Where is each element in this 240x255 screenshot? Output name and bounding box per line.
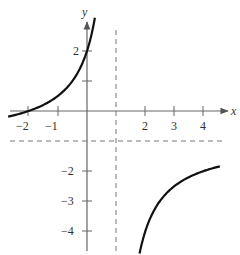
y-tick-label: −4 xyxy=(61,224,74,238)
y-tick-label: −2 xyxy=(61,164,74,178)
y-axis-label: y xyxy=(81,5,88,19)
x-axis-label: x xyxy=(230,104,237,118)
x-tick-label: 3 xyxy=(171,119,177,133)
curve-left-branch xyxy=(8,18,95,117)
curve-right-branch xyxy=(140,166,220,253)
y-tick-label: 2 xyxy=(73,44,79,58)
x-tick-label: 2 xyxy=(142,119,148,133)
function-graph: x y −2 −1 2 3 4 2 −2 −3 −4 xyxy=(0,0,240,255)
x-tick-label: −2 xyxy=(16,119,29,133)
x-tick-label: −1 xyxy=(45,119,58,133)
x-tick-label: 4 xyxy=(200,119,206,133)
y-tick-label: −3 xyxy=(61,194,74,208)
